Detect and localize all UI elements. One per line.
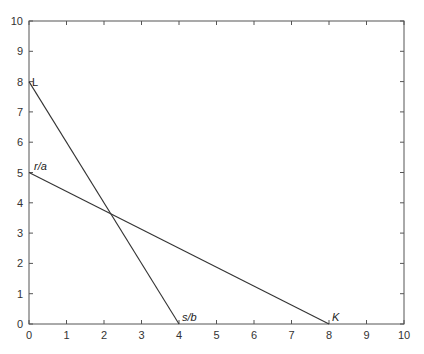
x-tick-label: 2 xyxy=(101,329,107,341)
x-tick-label: 5 xyxy=(213,329,219,341)
x-tick-label: 3 xyxy=(138,329,144,341)
series-line-1 xyxy=(29,82,179,324)
y-tick-label: 7 xyxy=(17,106,23,118)
annotation-label: r/a xyxy=(34,160,47,172)
x-axis-tick-labels: 012345678910 xyxy=(26,329,410,341)
data-series xyxy=(29,82,329,324)
annotation-label: L xyxy=(32,76,38,88)
y-tick-label: 6 xyxy=(17,136,23,148)
y-tick-label: 2 xyxy=(17,257,23,269)
y-tick-label: 1 xyxy=(17,288,23,300)
y-tick-label: 9 xyxy=(17,45,23,57)
x-tick-label: 4 xyxy=(176,329,182,341)
y-tick-label: 5 xyxy=(17,167,23,179)
x-tick-label: 1 xyxy=(63,329,69,341)
y-tick-label: 0 xyxy=(17,318,23,330)
series-line-2 xyxy=(29,173,329,325)
x-tick-label: 8 xyxy=(326,329,332,341)
x-tick-label: 9 xyxy=(363,329,369,341)
x-tick-label: 10 xyxy=(398,329,410,341)
y-tick-label: 10 xyxy=(11,15,23,27)
y-tick-label: 3 xyxy=(17,227,23,239)
x-tick-label: 6 xyxy=(251,329,257,341)
y-tick-label: 8 xyxy=(17,76,23,88)
x-tick-label: 7 xyxy=(288,329,294,341)
line-chart: 012345678910 012345678910 Lr/as/bK xyxy=(0,0,424,354)
annotation-label: s/b xyxy=(182,311,197,323)
annotation-label: K xyxy=(332,311,340,323)
y-axis-tick-labels: 012345678910 xyxy=(11,15,23,330)
y-tick-label: 4 xyxy=(17,197,23,209)
point-annotations: Lr/as/bK xyxy=(32,76,340,323)
x-tick-label: 0 xyxy=(26,329,32,341)
